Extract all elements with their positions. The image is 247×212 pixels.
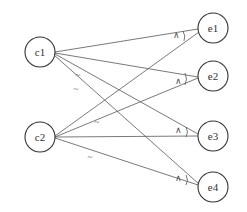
node-e4: e4: [198, 172, 228, 202]
negation-mark-c2-e4: ~: [88, 152, 93, 162]
node-e2: e2: [198, 61, 228, 91]
negation-mark-c2-e2: ~: [95, 117, 100, 127]
conjunction-mark-e4: ∧: [175, 173, 182, 183]
conjunction-mark-e3: ∧: [175, 125, 182, 135]
edges-c1: [54, 29, 199, 184]
edge-c1-e3: [55, 54, 198, 134]
node-e1: e1: [198, 13, 228, 43]
edge-c2-e3: [55, 136, 198, 137]
node-e2-label: e2: [208, 70, 218, 82]
arc-e4: [186, 175, 188, 185]
conjunction-marks: ∧ ∧ ∧ ∧: [173, 30, 182, 183]
conjunction-mark-e1: ∧: [173, 30, 180, 40]
node-c2-label: c2: [35, 131, 45, 143]
edges-c2: [55, 32, 199, 185]
node-e3-label: e3: [208, 130, 219, 142]
conjunction-arcs: [183, 31, 188, 185]
negation-mark-c1-e3: ~: [76, 70, 81, 80]
node-e1-label: e1: [208, 22, 218, 34]
node-e3: e3: [198, 121, 228, 151]
node-e4-label: e4: [208, 181, 219, 193]
arc-e1: [183, 31, 185, 41]
node-c1: c1: [25, 37, 55, 67]
bipartite-diagram: ∧ ∧ ∧ ∧ ~ ~ ~ ~ c1 c2 e1 e2 e3 e4: [0, 0, 247, 212]
node-c2: c2: [25, 122, 55, 152]
negation-mark-c1-e4: ~: [74, 84, 79, 94]
node-c1-label: c1: [35, 46, 45, 58]
conjunction-mark-e2: ∧: [175, 76, 182, 86]
